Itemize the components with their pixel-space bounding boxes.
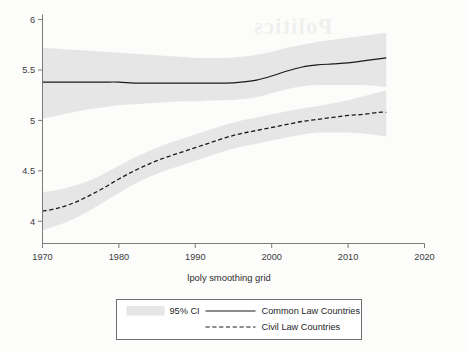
x-tick-label: 2010 <box>338 252 358 262</box>
y-tick-label: 5 <box>30 116 35 126</box>
x-tick-label: 2000 <box>261 252 281 262</box>
x-tick-label: 1970 <box>32 252 52 262</box>
x-axis-title-text: lpoly smoothing grid <box>187 272 270 283</box>
confidence-interval-bands <box>43 33 387 231</box>
y-tick-label: 4 <box>30 217 35 227</box>
y-tick-label: 4.5 <box>22 166 35 176</box>
line-chart-plot: 44.555.56197019801990200020102020 lpoly … <box>0 0 468 351</box>
legend-label-common-law: Common Law Countries <box>262 306 361 316</box>
x-tick-label: 1980 <box>109 252 129 262</box>
chart-legend: 95% CICommon Law CountriesCivil Law Coun… <box>117 300 362 340</box>
ci-band-civil-law <box>43 90 387 230</box>
legend-swatch-ci <box>127 306 165 316</box>
legend-label-ci: 95% CI <box>170 306 200 316</box>
x-tick-label: 2020 <box>414 252 434 262</box>
chart-figure: Politics comparative perspective 44.555.… <box>0 0 468 351</box>
x-tick-label: 1990 <box>185 252 205 262</box>
legend-label-civil-law: Civil Law Countries <box>262 322 341 332</box>
y-tick-label: 5.5 <box>22 65 35 75</box>
x-axis-title: lpoly smoothing grid <box>187 272 270 283</box>
y-tick-label: 6 <box>30 15 35 25</box>
